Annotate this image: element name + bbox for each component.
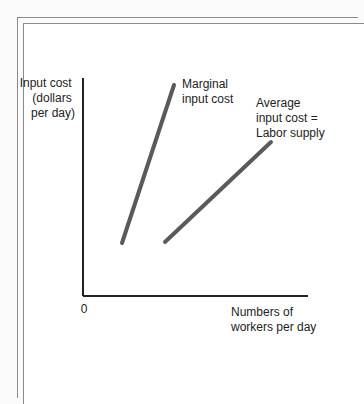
x-axis-label: Numbers of workers per day	[230, 305, 316, 334]
marginal-input-cost-line	[122, 85, 174, 243]
marginal-input-cost-label: Marginal input cost	[182, 77, 234, 106]
origin-label: 0	[81, 302, 88, 316]
y-axis-label: Input cost (dollars per day)	[20, 76, 75, 120]
average-input-cost-line	[165, 142, 271, 242]
average-input-cost-label: Average input cost = Labor supply	[256, 96, 325, 140]
